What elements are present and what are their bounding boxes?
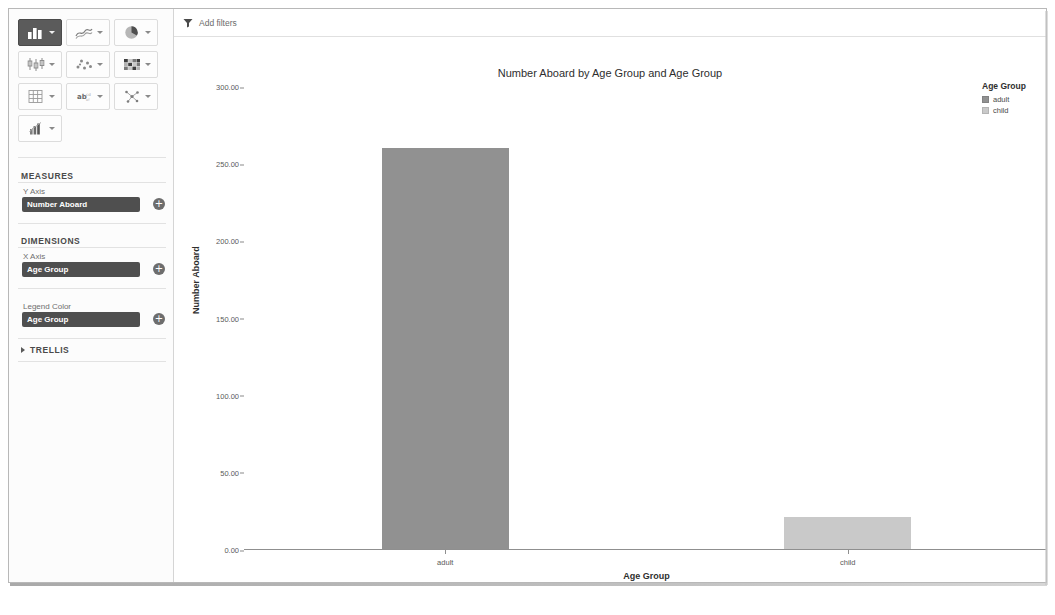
box-plot-icon xyxy=(26,56,46,73)
heatmap-icon xyxy=(122,56,142,73)
panel-divider-7 xyxy=(18,361,166,362)
combo-statistics-icon xyxy=(26,120,46,137)
legend-label: adult xyxy=(993,95,1009,104)
network-icon xyxy=(122,88,142,105)
bar-chart-icon xyxy=(26,24,46,41)
chevron-down-icon[interactable] xyxy=(97,31,103,34)
chart-type-heatmap-chart[interactable] xyxy=(114,51,158,78)
panel-divider-1 xyxy=(18,157,166,158)
y-axis-tick-label: 100.00 xyxy=(216,391,244,400)
chart-title: Number Aboard by Age Group and Age Group xyxy=(174,67,1046,79)
filter-icon xyxy=(183,18,193,28)
chevron-down-icon[interactable] xyxy=(49,95,55,98)
chart-type-network-chart[interactable] xyxy=(114,83,158,110)
legend-item[interactable]: adult xyxy=(982,95,1047,104)
chart-type-combo-statistics-chart[interactable] xyxy=(18,115,62,142)
table-grid-icon xyxy=(26,88,46,105)
chart-type-pie-chart[interactable] xyxy=(114,19,158,46)
chart-type-bar-chart[interactable] xyxy=(18,19,62,46)
x-axis-tick-mark xyxy=(848,550,849,554)
x-axis-tick-label: adult xyxy=(437,558,453,567)
chevron-down-icon[interactable] xyxy=(97,95,103,98)
y-axis-field-pill[interactable]: Number Aboard xyxy=(22,197,140,212)
panel-divider-4 xyxy=(18,247,166,248)
y-axis-tick-label: 150.00 xyxy=(216,314,244,323)
scatter-plot-icon xyxy=(74,56,94,73)
visualization-settings-panel: ab cd ef xyxy=(9,9,174,582)
y-axis-tick-label: 300.00 xyxy=(216,83,244,92)
legend-title: Age Group xyxy=(982,81,1047,91)
chevron-down-icon[interactable] xyxy=(145,63,151,66)
legend: Age Group adultchild xyxy=(982,81,1047,117)
trellis-section-title: TRELLIS xyxy=(30,345,69,355)
x-axis-field-row: Age Group + xyxy=(22,262,165,277)
measures-section-title: MEASURES xyxy=(21,171,74,181)
chart-canvas-area: Add filters Number Aboard by Age Group a… xyxy=(174,9,1046,582)
legend-items: adultchild xyxy=(982,95,1047,115)
chart-type-toolbar: ab cd ef xyxy=(18,19,166,142)
plot-area: 0.0050.00100.00150.00200.00250.00300.00a… xyxy=(244,87,1047,550)
svg-text:ef: ef xyxy=(86,98,90,102)
legend-color-label: Legend Color xyxy=(23,302,71,311)
y-axis-field-row: Number Aboard + xyxy=(22,197,165,212)
chevron-down-icon[interactable] xyxy=(145,95,151,98)
x-axis-label: X Axis xyxy=(23,252,45,261)
legend-item[interactable]: child xyxy=(982,106,1047,115)
x-axis-title: Age Group xyxy=(244,571,1047,581)
bar-child[interactable] xyxy=(784,517,911,549)
y-axis-tick-label: 0.00 xyxy=(224,546,244,555)
panel-divider-2 xyxy=(18,182,166,183)
chevron-right-icon xyxy=(21,347,25,353)
chevron-down-icon[interactable] xyxy=(97,63,103,66)
panel-divider-3 xyxy=(18,223,166,224)
chevron-down-icon[interactable] xyxy=(49,127,55,130)
filter-bar: Add filters xyxy=(174,9,1046,37)
legend-color-add-button[interactable]: + xyxy=(153,313,165,325)
y-axis-label: Y Axis xyxy=(23,187,45,196)
chart-type-scatter-plot-chart[interactable] xyxy=(66,51,110,78)
chart-type-word-cloud-chart[interactable]: ab cd ef xyxy=(66,83,110,110)
window-shadow-bottom xyxy=(10,583,1047,586)
x-axis-line xyxy=(244,549,1047,550)
line-chart-icon xyxy=(74,24,94,41)
x-axis-tick-label: child xyxy=(840,558,855,567)
pie-chart-icon xyxy=(122,24,142,41)
y-axis-tick-label: 250.00 xyxy=(216,160,244,169)
legend-label: child xyxy=(993,106,1008,115)
x-axis-field-pill[interactable]: Age Group xyxy=(22,262,140,277)
legend-color-field-pill[interactable]: Age Group xyxy=(22,312,140,327)
chevron-down-icon[interactable] xyxy=(145,31,151,34)
legend-swatch-icon xyxy=(982,96,989,103)
y-axis-add-button[interactable]: + xyxy=(153,198,165,210)
chart-type-box-plot-chart[interactable] xyxy=(18,51,62,78)
panel-divider-5 xyxy=(18,288,166,289)
panel-divider-6 xyxy=(18,338,166,339)
y-axis-title: Number Aboard xyxy=(191,246,201,314)
chevron-down-icon[interactable] xyxy=(49,31,55,34)
window-shadow-right xyxy=(1045,11,1048,585)
word-cloud-icon: ab cd ef xyxy=(74,88,94,105)
y-axis-tick-label: 50.00 xyxy=(220,468,244,477)
y-axis-tick-label: 200.00 xyxy=(216,237,244,246)
dimensions-section-title: DIMENSIONS xyxy=(21,236,80,246)
app-window: ab cd ef xyxy=(8,8,1047,583)
chart-type-table-grid-chart[interactable] xyxy=(18,83,62,110)
screenshot-root: ab cd ef xyxy=(0,0,1055,615)
trellis-section-header[interactable]: TRELLIS xyxy=(21,345,69,355)
legend-color-field-row: Age Group + xyxy=(22,312,165,327)
add-filters-button[interactable]: Add filters xyxy=(199,18,237,28)
legend-swatch-icon xyxy=(982,107,989,114)
chart-type-line-chart[interactable] xyxy=(66,19,110,46)
svg-text:cd: cd xyxy=(86,92,91,97)
x-axis-add-button[interactable]: + xyxy=(153,263,165,275)
x-axis-tick-mark xyxy=(445,550,446,554)
bar-adult[interactable] xyxy=(382,148,509,549)
chevron-down-icon[interactable] xyxy=(49,63,55,66)
